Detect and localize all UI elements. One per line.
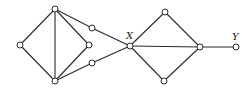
- edge-L-B: [20, 45, 55, 81]
- node-U: [89, 25, 95, 31]
- edge-X-R: [130, 46, 200, 47]
- node-Y: [233, 44, 239, 50]
- edge-B-M: [55, 45, 89, 81]
- edge-X-RB: [130, 46, 164, 81]
- nodes: [17, 6, 239, 84]
- graph-diagram: XY: [0, 0, 249, 90]
- edge-D-X: [92, 46, 130, 63]
- node-label-y: Y: [232, 31, 240, 42]
- edge-U-X: [92, 28, 130, 46]
- node-RT: [162, 9, 168, 15]
- node-D: [89, 60, 95, 66]
- node-B: [52, 78, 58, 84]
- edge-RT-R: [165, 12, 200, 47]
- node-M: [86, 42, 92, 48]
- node-RB: [161, 78, 167, 84]
- node-R: [197, 44, 203, 50]
- node-L: [17, 42, 23, 48]
- labels: XY: [125, 30, 240, 42]
- edge-X-RT: [130, 12, 165, 46]
- edge-T-U: [55, 9, 92, 28]
- node-X: [127, 43, 133, 49]
- edge-T-M: [55, 9, 89, 45]
- edge-L-T: [20, 9, 55, 45]
- edge-B-D: [55, 63, 92, 81]
- node-label-x: X: [125, 30, 134, 41]
- edge-RB-R: [164, 47, 200, 81]
- node-T: [52, 6, 58, 12]
